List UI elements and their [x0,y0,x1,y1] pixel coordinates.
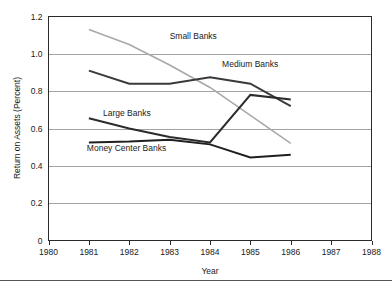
x-tick-label: 1988 [362,247,381,257]
series-label-money-center-banks: Money Center Banks [87,143,166,153]
x-tick-label: 1985 [241,247,260,257]
series-label-small-banks: Small Banks [170,31,217,41]
x-axis-title: Year [201,266,218,276]
chart-figure: 00.20.40.60.81.01.2 19801981198219831984… [0,0,392,288]
y-tick-label: 0.6 [31,124,43,134]
x-tick-label: 1983 [160,247,179,257]
series-label-medium-banks: Medium Banks [222,59,278,69]
y-tick-label: 0.2 [31,198,43,208]
return-on-assets-line-chart: 00.20.40.60.81.01.2 19801981198219831984… [0,0,392,288]
footer-divider [0,280,392,281]
x-tick-label: 1987 [322,247,341,257]
y-tick-label: 0.4 [31,161,43,171]
x-tick-label: 1980 [39,247,58,257]
x-tick-label: 1984 [201,247,220,257]
y-tick-label: 0 [38,236,43,246]
chart-background [0,0,392,288]
x-axis-tick-labels: 198019811982198319841985198619871988 [39,247,381,257]
x-tick-label: 1981 [79,247,98,257]
x-tick-label: 1986 [281,247,300,257]
x-tick-label: 1982 [120,247,139,257]
y-tick-label: 1.2 [31,12,43,22]
y-axis-title: Return on Assets (Percent) [12,77,22,179]
y-tick-label: 0.8 [31,86,43,96]
series-label-large-banks: Large Banks [103,108,151,118]
y-tick-label: 1.0 [31,49,43,59]
